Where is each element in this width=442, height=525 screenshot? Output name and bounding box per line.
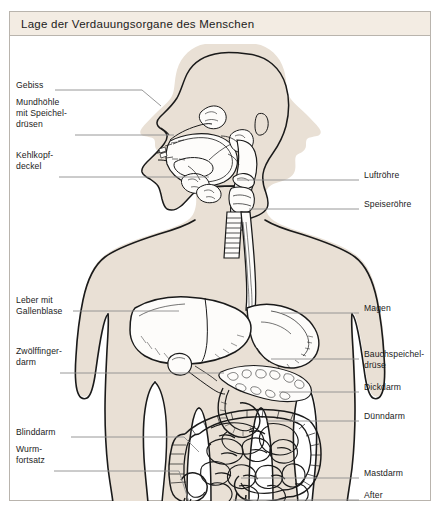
label-duenndarm: Dünndarm xyxy=(364,411,405,422)
label-wurmfortsatz: Wurm- fortsatz xyxy=(16,444,45,466)
leader-gebiss xyxy=(55,90,161,106)
label-gebiss: Gebiss xyxy=(16,80,43,91)
label-magen: Magen xyxy=(364,303,391,314)
label-bauchspeicheldruese: Bauchspeichel- drüse xyxy=(364,349,424,371)
label-speiseroehre: Speiseröhre xyxy=(364,199,411,210)
label-mundhoehle: Mundhöhle mit Speichel- drüsen xyxy=(16,97,67,131)
label-blinddarm: Blinddarm xyxy=(16,427,56,438)
label-kehlkopfdeckel: Kehlkopf- deckel xyxy=(16,150,53,172)
trachea xyxy=(224,212,242,258)
label-luftroehre: Luftröhre xyxy=(364,170,399,181)
label-after: After xyxy=(364,490,383,501)
anatomy-illustration xyxy=(9,36,431,501)
label-zwoelffingerdarm: Zwölffinger- darm xyxy=(16,346,62,368)
label-dickdarm: Dickdarm xyxy=(364,382,401,393)
figure-title-bar: Lage der Verdauungsorgane des Menschen xyxy=(9,11,431,36)
label-leber: Leber mit Gallenblase xyxy=(16,295,63,317)
label-mastdarm: Mastdarm xyxy=(364,468,403,479)
digestive-system-figure: Lage der Verdauungsorgane des Menschen xyxy=(0,0,442,525)
page-title: Lage der Verdauungsorgane des Menschen xyxy=(10,18,254,30)
